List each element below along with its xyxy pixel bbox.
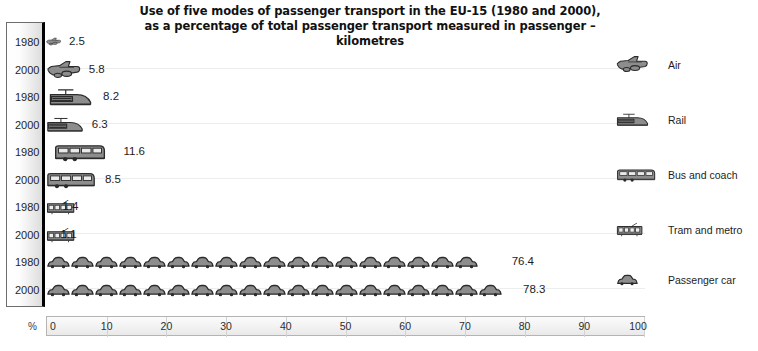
car-icon: [286, 284, 310, 297]
car-icon: [358, 284, 382, 297]
pictogram-bar: [46, 168, 97, 192]
year-label: 2000: [15, 283, 49, 297]
car-icon: [430, 284, 454, 297]
legend-label: Rail: [668, 114, 686, 126]
legend-label: Bus and coach: [668, 169, 737, 181]
pictogram-row: 6.3: [46, 113, 645, 137]
car-icon: [190, 284, 214, 297]
car-icon: [334, 284, 358, 297]
pictogram-row: 5.8: [46, 58, 645, 82]
value-label: 8.5: [105, 171, 121, 187]
car-icon: [262, 256, 286, 269]
car-icon: [382, 256, 406, 269]
legend-label: Air: [668, 59, 681, 71]
axis-tick-label: 70: [445, 320, 485, 332]
axis-tick-label: 0: [33, 320, 73, 332]
legend-item-rail: Rail: [616, 105, 686, 135]
car-icon: [238, 284, 262, 297]
airplane-icon: [46, 60, 81, 81]
car-icon: [286, 256, 310, 269]
axis-tick-label: 50: [326, 320, 366, 332]
year-label: 1980: [15, 255, 49, 269]
car-icon: [166, 284, 190, 297]
legend-label: Passenger car: [668, 274, 736, 286]
pictogram-bar: [46, 58, 81, 82]
car-icon: [262, 284, 286, 297]
axis-tick-label: 40: [266, 320, 306, 332]
value-label: 76.4: [512, 253, 534, 269]
car-icon: [118, 284, 142, 297]
car-icon: [310, 256, 334, 269]
airplane-icon: [616, 55, 664, 75]
year-label: 2000: [15, 118, 49, 132]
pictogram-row: 76.4: [46, 250, 645, 274]
year-label: 2000: [15, 63, 49, 77]
value-label: 1.1: [61, 226, 77, 242]
axis-tick-label: 20: [146, 320, 186, 332]
axis-tick-label: 80: [505, 320, 545, 332]
car-icon: [478, 284, 502, 297]
pictogram-bar: [46, 278, 515, 302]
car-icon: [310, 284, 334, 297]
car-icon: [382, 284, 406, 297]
year-label: 1980: [15, 90, 49, 104]
legend: Air Rail Bus and coach: [616, 22, 758, 307]
bus-icon: [616, 167, 664, 183]
bus-icon: [46, 170, 97, 190]
pictogram-row: 78.3: [46, 278, 645, 302]
legend-item-bus-and-coach: Bus and coach: [616, 160, 737, 190]
axis-tick-label: 100: [618, 320, 658, 332]
car-icon: [166, 256, 190, 269]
car-icon: [142, 256, 166, 269]
car-icon: [334, 256, 358, 269]
car-icon: [454, 256, 478, 269]
car-icon: [430, 256, 454, 269]
car-icon: [454, 284, 478, 297]
value-label: 78.3: [523, 281, 545, 297]
pictogram-bar: [46, 140, 115, 164]
car-icon: [214, 256, 238, 269]
chart-canvas: Use of five modes of passenger transport…: [0, 0, 758, 351]
train-icon: [46, 87, 95, 108]
axis-tick-label: 30: [206, 320, 246, 332]
bus-icon: [46, 142, 115, 163]
x-axis: 0102030405060708090100: [46, 316, 645, 336]
pictogram-row: 8.2: [46, 85, 645, 109]
pictogram-row: 11.6: [46, 140, 645, 164]
car-icon: [406, 284, 430, 297]
pictogram-bar: [46, 30, 61, 54]
train-icon: [616, 112, 664, 128]
car-icon: [616, 274, 638, 286]
value-label: 2.5: [69, 33, 85, 49]
car-icon: [190, 256, 214, 269]
pictogram-row: 1.1: [46, 223, 645, 247]
axis-tick-label: 10: [87, 320, 127, 332]
car-icon: [118, 256, 142, 269]
legend-item-air: Air: [616, 50, 681, 80]
pictogram-row: 1.4: [46, 195, 645, 219]
value-label: 1.4: [62, 198, 78, 214]
pictogram-row: 8.5: [46, 168, 645, 192]
car-icon: [94, 256, 118, 269]
year-label: 2000: [15, 173, 49, 187]
car-icon: [238, 256, 262, 269]
car-icon: [46, 256, 70, 269]
car-icon: [406, 256, 430, 269]
airplane-icon: [616, 55, 648, 75]
pictogram-bar: [46, 85, 95, 109]
car-icon: [142, 284, 166, 297]
airplane-icon: [46, 36, 61, 48]
year-label: 1980: [15, 35, 49, 49]
legend-label: Tram and metro: [668, 224, 742, 236]
car-icon: [358, 256, 382, 269]
pictogram-row: 2.5: [46, 30, 645, 54]
axis-tick-label: 60: [385, 320, 425, 332]
axis-tick-label: 90: [564, 320, 604, 332]
chart-title-line-1: Use of five modes of passenger transport…: [120, 4, 620, 19]
year-label: 1980: [15, 200, 49, 214]
year-label-column: 1980200019802000198020001980200019802000: [6, 22, 45, 307]
legend-item-passenger-car: Passenger car: [616, 265, 736, 295]
year-label: 2000: [15, 228, 49, 242]
train-icon: [616, 112, 649, 128]
value-label: 8.2: [103, 88, 119, 104]
